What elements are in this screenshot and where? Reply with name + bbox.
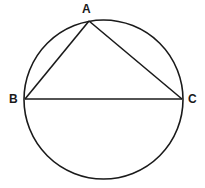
vertex-label-b: B [9, 93, 18, 105]
vertex-label-c: C [188, 93, 197, 105]
geometry-figure: A B C [0, 0, 205, 188]
segment-ac [89, 21, 182, 99]
vertex-label-a: A [82, 3, 91, 15]
circle-triangle-diagram [0, 0, 205, 188]
